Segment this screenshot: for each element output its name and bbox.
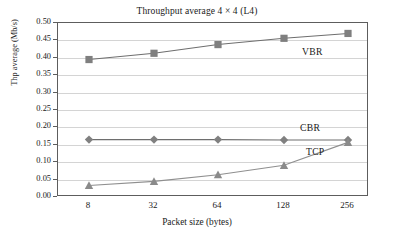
data-point-marker xyxy=(150,50,157,57)
data-point-marker xyxy=(214,135,222,143)
y-tick-label: 0.50 xyxy=(17,17,51,26)
x-tick-label: 256 xyxy=(327,200,367,210)
x-axis-title: Packet size (bytes) xyxy=(0,217,394,227)
y-tick-label: 0.15 xyxy=(17,139,51,148)
x-tick-label: 32 xyxy=(133,200,173,210)
y-tick-mark xyxy=(53,196,57,197)
data-point-marker xyxy=(280,136,288,144)
y-tick-label: 0.10 xyxy=(17,156,51,165)
chart-figure: Throughput average 4 × 4 (L4) Thp averag… xyxy=(0,0,394,236)
y-tick-label: 0.25 xyxy=(17,104,51,113)
data-point-marker xyxy=(214,41,221,48)
series-label-tcp: TCP xyxy=(306,146,325,157)
series-cbr xyxy=(85,135,352,144)
data-point-marker xyxy=(150,135,158,143)
y-tick-label: 0.05 xyxy=(17,174,51,183)
series-label-vbr: VBR xyxy=(302,46,323,57)
x-tick-label: 128 xyxy=(263,200,303,210)
chart-title: Throughput average 4 × 4 (L4) xyxy=(0,6,394,16)
data-point-marker xyxy=(344,30,351,37)
data-point-marker xyxy=(85,56,92,63)
y-tick-label: 0.00 xyxy=(17,191,51,200)
data-point-marker xyxy=(85,135,93,143)
series-label-cbr: CBR xyxy=(300,122,320,133)
x-tick-label: 64 xyxy=(197,200,237,210)
y-tick-label: 0.30 xyxy=(17,87,51,96)
y-tick-label: 0.35 xyxy=(17,69,51,78)
y-tick-label: 0.45 xyxy=(17,34,51,43)
x-tick-label: 8 xyxy=(68,200,108,210)
data-point-marker xyxy=(280,35,287,42)
data-point-marker xyxy=(280,161,288,169)
y-tick-label: 0.40 xyxy=(17,52,51,61)
y-tick-label: 0.20 xyxy=(17,121,51,130)
